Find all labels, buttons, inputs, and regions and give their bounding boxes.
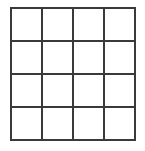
- grid-cell[interactable]: [11, 107, 42, 140]
- grid-cell[interactable]: [104, 8, 135, 41]
- grid-cell[interactable]: [73, 107, 104, 140]
- grid-cell[interactable]: [42, 107, 73, 140]
- grid-cell[interactable]: [104, 107, 135, 140]
- grid-cell[interactable]: [11, 41, 42, 74]
- grid-cell[interactable]: [11, 8, 42, 41]
- grid-cell[interactable]: [73, 74, 104, 107]
- grid-cell[interactable]: [73, 41, 104, 74]
- grid-cell[interactable]: [104, 74, 135, 107]
- grid-table: [10, 7, 136, 141]
- grid-cell[interactable]: [42, 41, 73, 74]
- grid-figure: [0, 0, 145, 151]
- grid-cell[interactable]: [42, 74, 73, 107]
- grid-cell[interactable]: [104, 41, 135, 74]
- grid-row: [11, 8, 135, 41]
- grid-cell[interactable]: [42, 8, 73, 41]
- grid-cell[interactable]: [11, 74, 42, 107]
- grid-row: [11, 41, 135, 74]
- grid-body: [11, 8, 135, 140]
- grid-row: [11, 74, 135, 107]
- grid-row: [11, 107, 135, 140]
- grid-cell[interactable]: [73, 8, 104, 41]
